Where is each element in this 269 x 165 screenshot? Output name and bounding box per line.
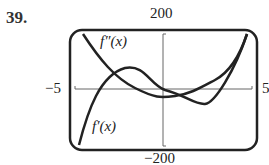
f-prime-label: f′(x) [92,118,116,135]
calculator-screen [0,0,269,165]
f-double-prime-label: f″(x) [100,33,127,50]
